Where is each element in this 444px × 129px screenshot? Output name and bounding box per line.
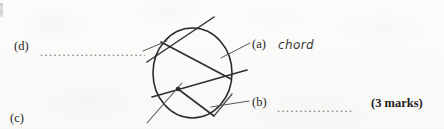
- label-d-enumerator: (d): [14, 40, 29, 53]
- radius-lower-right: [178, 89, 214, 116]
- answer-text-a[interactable]: chord: [278, 39, 314, 51]
- secant-line: [152, 70, 247, 97]
- tangent-line: [147, 17, 214, 62]
- leader-line-b: [211, 101, 249, 107]
- label-c-enumerator: (c): [10, 112, 24, 125]
- answer-dotted-line-d[interactable]: ....................................: [40, 49, 145, 59]
- leader-line-a: [221, 43, 250, 58]
- leader-line-d: [143, 41, 167, 51]
- scanned-exam-question: (d) ....................................…: [0, 0, 444, 129]
- chord-upper: [161, 42, 231, 79]
- label-a-enumerator: (a): [252, 38, 266, 51]
- label-b-enumerator: (b): [252, 96, 267, 109]
- answer-dotted-line-b[interactable]: ........................: [277, 105, 353, 115]
- marks-allocation: (3 marks): [371, 97, 423, 110]
- centre-point-dot: [176, 87, 181, 92]
